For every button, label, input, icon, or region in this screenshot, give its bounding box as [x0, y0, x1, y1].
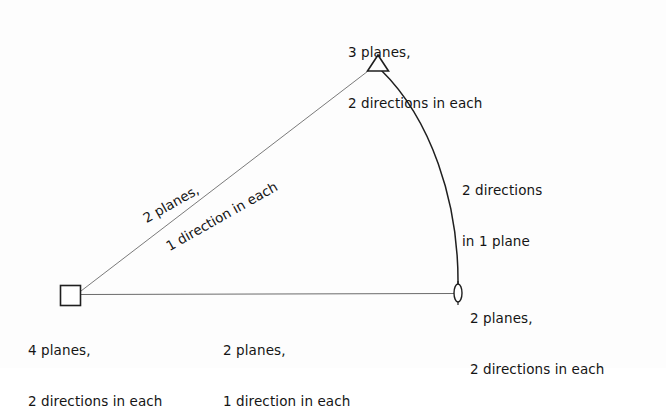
triangle-node-label-line1: 3 planes, [348, 44, 483, 61]
triangle-node-label-line2: 2 directions in each [348, 95, 483, 112]
square-node-label: 4 planes, 2 directions in each [28, 308, 163, 410]
arc-edge-label-line2: in 1 plane [462, 233, 542, 250]
lens-node-label-line1: 2 planes, [470, 310, 605, 327]
diagonal-edge-line [81, 68, 372, 291]
square-node-label-line1: 4 planes, [28, 342, 163, 359]
bottom-edge-label-line2: 1 direction in each [223, 393, 350, 410]
bottom-edge-label: 2 planes, 1 direction in each [223, 308, 350, 410]
arc-edge-label: 2 directions in 1 plane [462, 148, 542, 284]
bottom-edge-line [81, 294, 455, 295]
lens-node-label-line2: 2 directions in each [470, 361, 605, 378]
lens-node-marker [454, 281, 462, 305]
lens-node-label: 2 planes, 2 directions in each [470, 276, 605, 410]
arc-edge-label-line1: 2 directions [462, 182, 542, 199]
square-node-marker [61, 286, 81, 306]
triangle-node-label: 3 planes, 2 directions in each [348, 10, 483, 146]
square-node-label-line2: 2 directions in each [28, 393, 163, 410]
bottom-edge-label-line1: 2 planes, [223, 342, 350, 359]
